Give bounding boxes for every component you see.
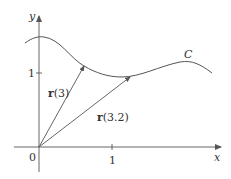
y-axis-label: y [28, 10, 36, 23]
x-axis-label: x [214, 151, 221, 164]
vector-r3-label-arg: (3) [54, 87, 70, 100]
vector-function-diagram: y x 0 1 1 C r(3) r(3.2) [0, 0, 231, 179]
y-axis [36, 16, 42, 172]
vector-r3-arrow [39, 66, 84, 147]
vector-r3-label: r(3) [48, 87, 69, 100]
y-tick-label: 1 [28, 67, 35, 80]
vector-r3-2-label: r(3.2) [97, 111, 129, 124]
vector-r3-2-label-arg: (3.2) [103, 111, 129, 124]
x-axis [14, 144, 221, 150]
origin-label: 0 [29, 151, 36, 164]
x-tick-label: 1 [109, 154, 116, 167]
curve-label: C [184, 48, 193, 61]
